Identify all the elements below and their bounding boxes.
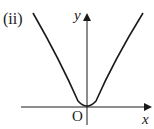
part-label: (ii) xyxy=(3,11,23,27)
x-axis-arrow-icon xyxy=(144,103,152,111)
y-axis-label: y xyxy=(74,8,81,23)
y-axis-arrow-icon xyxy=(83,13,91,21)
x-axis-label: x xyxy=(142,112,149,127)
parabola-curve xyxy=(33,13,143,106)
origin-label: O xyxy=(72,109,83,124)
